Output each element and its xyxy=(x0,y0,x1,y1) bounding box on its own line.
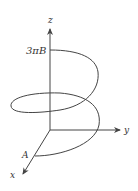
x-axis-label: x xyxy=(10,170,15,180)
y-axis-label: y xyxy=(123,125,130,135)
top-label: 3πB xyxy=(26,45,46,56)
start-point-label: A xyxy=(21,150,29,160)
z-axis-label: z xyxy=(47,15,53,25)
helix-curve xyxy=(11,50,99,156)
helix-diagram: z y x 3πB A xyxy=(0,0,138,191)
